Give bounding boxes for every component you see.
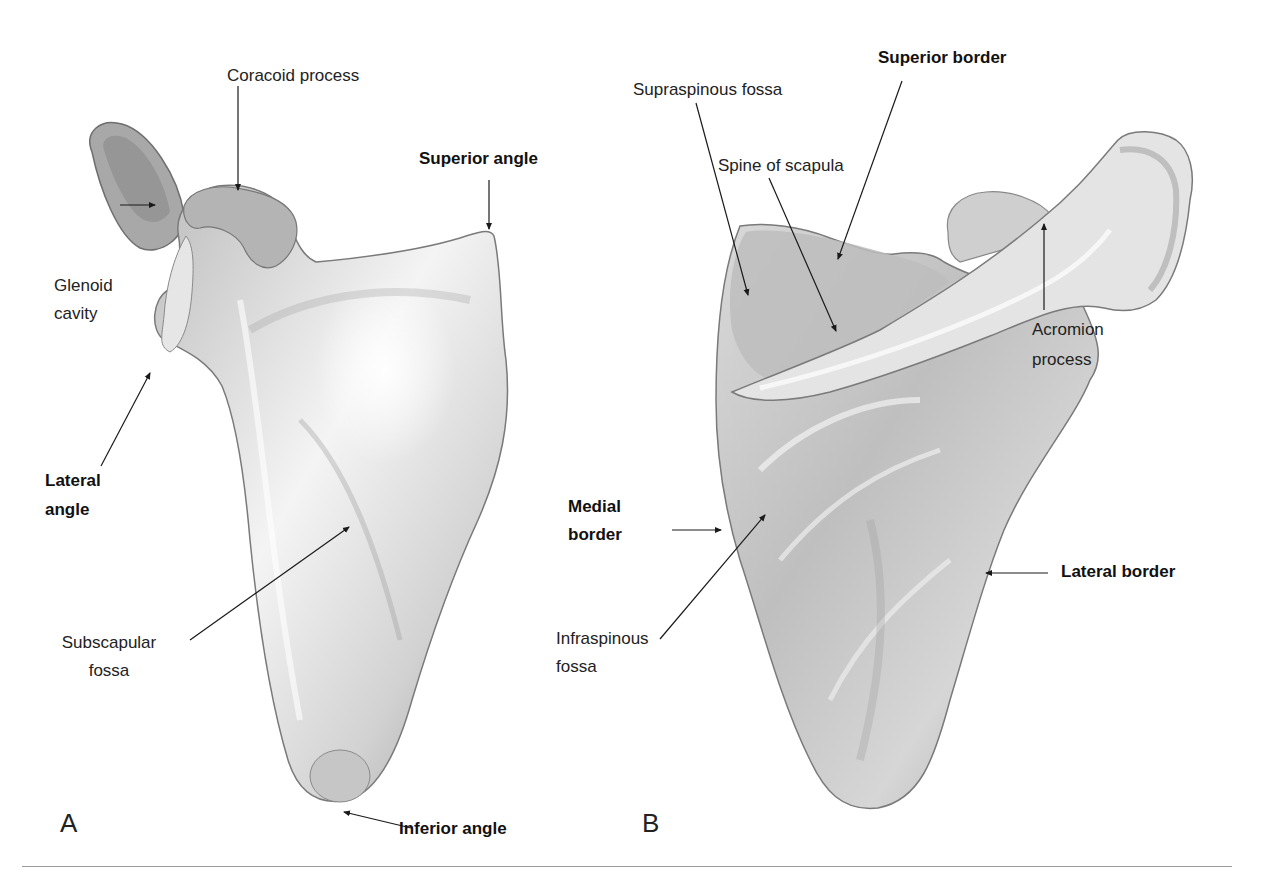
bottom-divider [22, 866, 1232, 867]
label-acromion-process-line2: process [1032, 349, 1092, 370]
label-inferior-angle: Inferior angle [399, 818, 507, 839]
panel-letter-a: A [60, 808, 77, 839]
label-lateral-border: Lateral border [1061, 561, 1175, 582]
label-superior-border: Superior border [878, 47, 1006, 68]
label-infraspinous-fossa-line1: Infraspinous [556, 628, 649, 649]
label-coracoid-process: Coracoid process [227, 65, 359, 86]
scapula-anterior-view [90, 123, 508, 802]
label-subscapular-fossa-line2: fossa [44, 660, 174, 681]
scapula-figure: Coracoid process Superior angle Glenoid … [0, 0, 1264, 887]
leader-superior-border [838, 81, 902, 259]
label-lateral-angle-line1: Lateral [45, 470, 101, 491]
leader-supraspinous-fossa [696, 103, 748, 295]
scapula-posterior-view [716, 132, 1192, 809]
label-acromion-process-line1: Acromion [1032, 319, 1104, 340]
label-supraspinous-fossa: Supraspinous fossa [633, 79, 782, 100]
label-glenoid-cavity-line1: Glenoid [54, 275, 113, 296]
label-infraspinous-fossa-line2: fossa [556, 656, 597, 677]
label-lateral-angle-line2: angle [45, 499, 89, 520]
label-medial-border-line1: Medial [568, 496, 621, 517]
label-spine-of-scapula: Spine of scapula [718, 155, 844, 176]
scapula-illustration [0, 0, 1264, 887]
leader-lateral-angle [101, 373, 150, 466]
label-superior-angle: Superior angle [419, 148, 538, 169]
panel-letter-b: B [642, 808, 659, 839]
label-subscapular-fossa-line1: Subscapular [44, 632, 174, 653]
label-medial-border-line2: border [568, 524, 622, 545]
label-glenoid-cavity-line2: cavity [54, 303, 97, 324]
